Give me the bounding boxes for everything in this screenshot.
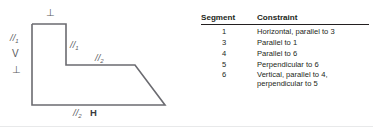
label-bottom-horizontal-h: H (90, 108, 97, 118)
cell-segment: 6 (201, 70, 257, 90)
constraint-figure: ⊥ //1 V ⊥ //1 //2 //2 H Segment Constrai… (0, 0, 373, 128)
label-mid-parallel-2: //2 (95, 53, 104, 63)
polygon-path (32, 24, 165, 105)
cell-segment: 5 (201, 59, 257, 70)
table-row: 1 Horizontal, parallel to 3 (201, 24, 369, 38)
cell-segment: 4 (201, 48, 257, 59)
table-row: 5 Perpendicular to 6 (201, 59, 369, 70)
cell-constraint: Horizontal, parallel to 3 (257, 24, 369, 38)
label-left-vertical-v: V (12, 49, 19, 59)
cell-constraint: Vertical, parallel to 4, perpendicular t… (257, 70, 369, 90)
table-header-row: Segment Constraint (201, 13, 369, 24)
label-top-perpendicular: ⊥ (46, 8, 55, 18)
header-constraint: Constraint (257, 13, 369, 24)
table-row: 3 Parallel to 1 (201, 38, 369, 49)
cell-constraint: Perpendicular to 6 (257, 59, 369, 70)
constraint-table: Segment Constraint 1 Horizontal, paralle… (201, 13, 369, 90)
label-left-perpendicular: ⊥ (12, 65, 21, 75)
bottom-divider (0, 126, 373, 127)
label-inner-parallel-1: //1 (70, 40, 79, 50)
constraint-table-wrap: Segment Constraint 1 Horizontal, paralle… (201, 13, 369, 90)
cell-segment: 1 (201, 24, 257, 38)
shape-diagram: ⊥ //1 V ⊥ //1 //2 //2 H (0, 0, 190, 122)
cell-constraint: Parallel to 1 (257, 38, 369, 49)
label-left-parallel-1: //1 (10, 33, 19, 43)
cell-segment: 3 (201, 38, 257, 49)
table-row: 4 Parallel to 6 (201, 48, 369, 59)
table-row: 6 Vertical, parallel to 4, perpendicular… (201, 70, 369, 90)
label-bottom-parallel-2: //2 (73, 108, 82, 118)
header-segment: Segment (201, 13, 257, 24)
cell-constraint: Parallel to 6 (257, 48, 369, 59)
